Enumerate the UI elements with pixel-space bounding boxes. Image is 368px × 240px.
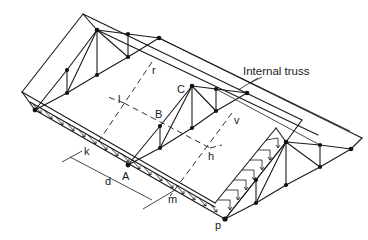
label-r: r xyxy=(152,64,156,76)
folded-plate-roof-diagram: Internal truss A B C d h k l m p r v xyxy=(0,0,368,240)
label-l: l xyxy=(118,93,120,105)
label-v: v xyxy=(234,114,240,126)
label-m: m xyxy=(168,193,177,205)
internal-truss-leader xyxy=(238,78,258,90)
label-h: h xyxy=(208,150,214,162)
label-p: p xyxy=(215,219,221,231)
right-end-truss xyxy=(222,140,353,222)
label-B: B xyxy=(155,108,162,120)
internal-truss xyxy=(126,84,250,168)
label-A: A xyxy=(122,170,130,182)
left-end-truss xyxy=(33,28,162,113)
eave-load-arrows xyxy=(33,104,217,212)
label-C: C xyxy=(177,83,185,95)
label-d: d xyxy=(105,175,111,187)
label-k: k xyxy=(84,145,90,157)
dashed-construction-lines xyxy=(97,62,232,196)
internal-truss-label: Internal truss xyxy=(243,65,310,77)
